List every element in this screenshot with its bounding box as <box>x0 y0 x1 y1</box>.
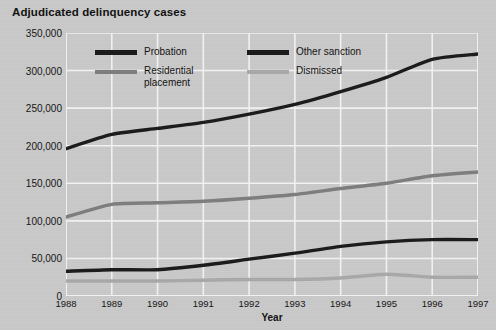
y-tick-label: 350,000 <box>2 28 62 39</box>
chart-title: Adjudicated delinquency cases <box>12 6 186 18</box>
x-tick-label: 1995 <box>376 298 397 309</box>
legend-item-probation: Probation <box>95 46 187 58</box>
x-tick-label: 1992 <box>239 298 260 309</box>
x-tick-label: 1994 <box>330 298 351 309</box>
x-tick-label: 1993 <box>284 298 305 309</box>
x-tick-label: 1988 <box>55 298 76 309</box>
y-tick-label: 0 <box>2 291 62 302</box>
y-tick-label: 50,000 <box>2 253 62 264</box>
x-tick-label: 1989 <box>101 298 122 309</box>
y-tick-label: 250,000 <box>2 103 62 114</box>
legend-swatch-other-sanction <box>247 50 289 55</box>
legend-item-other-sanction: Other sanction <box>247 46 361 58</box>
chart-figure: Adjudicated delinquency cases 050,000100… <box>0 0 496 330</box>
y-tick-label: 100,000 <box>2 215 62 226</box>
legend-label-probation: Probation <box>144 46 187 58</box>
x-tick-label: 1996 <box>422 298 443 309</box>
y-tick-label: 200,000 <box>2 140 62 151</box>
y-axis-tick-labels: 050,000100,000150,000200,000250,000300,0… <box>0 33 62 296</box>
legend-item-residential-placement: Residential placement <box>95 65 193 88</box>
legend-label-residential-placement: Residential placement <box>144 65 193 88</box>
x-axis-tick-labels: 1988198919901991199219931994199519961997 <box>66 298 478 312</box>
legend-swatch-residential-placement <box>95 70 137 74</box>
legend-label-other-sanction: Other sanction <box>296 46 361 58</box>
chart-legend: Probation Other sanction Residential pla… <box>95 46 385 94</box>
x-tick-label: 1991 <box>193 298 214 309</box>
legend-label-dismissed: Dismissed <box>296 65 342 77</box>
x-axis-title: Year <box>66 312 478 323</box>
legend-item-dismissed: Dismissed <box>247 65 342 77</box>
legend-swatch-dismissed <box>247 70 289 74</box>
y-tick-label: 150,000 <box>2 178 62 189</box>
y-tick-label: 300,000 <box>2 65 62 76</box>
x-tick-label: 1997 <box>467 298 488 309</box>
x-tick-label: 1990 <box>147 298 168 309</box>
legend-swatch-probation <box>95 50 137 55</box>
